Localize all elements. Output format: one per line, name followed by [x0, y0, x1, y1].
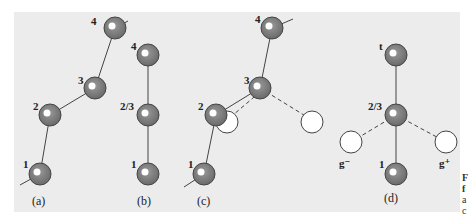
panel-label-b: (b)	[137, 194, 151, 208]
atom-label: 1	[23, 158, 29, 170]
panel-label-a: (a)	[32, 194, 45, 208]
caption-fragment: a	[462, 194, 466, 205]
caption-fragment: f	[462, 183, 465, 194]
caption-fragment: c	[462, 205, 466, 216]
atom-label: t	[379, 40, 383, 52]
gauche-minus-label: g⁻	[339, 157, 351, 169]
atom-label: 4	[131, 40, 137, 52]
atom-label: 4	[255, 13, 261, 25]
atom-label: 2/3	[368, 100, 383, 112]
panel-label-c: (c)	[197, 194, 210, 208]
gauche-minus-atom	[340, 131, 362, 153]
gauche-plus-atom	[435, 131, 457, 153]
atom-label: 1	[379, 158, 385, 170]
conformation-diagram: 4 3 2 1 4 2/3 1 4 3 2 1 t 2/3 1 g⁻ g⁺ (a…	[0, 0, 476, 219]
atom-label: 2	[198, 100, 204, 112]
atom-label: 2	[33, 100, 39, 112]
caption-fragment: F	[462, 172, 468, 183]
atom-label: 1	[131, 158, 137, 170]
gauche-plus-label: g⁺	[439, 157, 451, 169]
atom-label: 3	[244, 74, 250, 86]
atom-label: 1	[188, 158, 194, 170]
atom-label: 4	[91, 15, 97, 27]
atom-label: 2/3	[120, 100, 135, 112]
atom-label: 3	[78, 74, 84, 86]
panel-label-d: (d)	[384, 191, 398, 205]
